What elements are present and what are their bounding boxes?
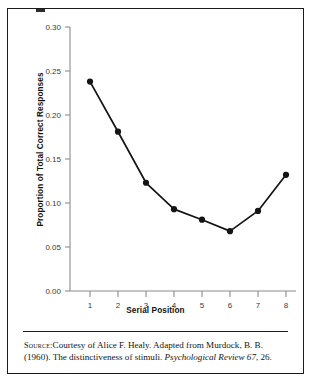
y-tick-label-020: 0.20 [45,111,61,120]
y-tick-label-000: 0.00 [45,287,61,296]
data-point-3 [143,180,149,186]
data-point-8 [283,172,289,178]
data-point-1 [87,78,93,84]
data-point-4 [171,206,177,212]
figure-container: 0.30 0.25 0.20 0.15 0.10 0.05 0.00 1 2 3 [7,8,304,374]
line-chart-svg: 0.30 0.25 0.20 0.15 0.10 0.05 0.00 1 2 3 [8,9,303,324]
y-tick-label-025: 0.25 [45,67,61,76]
caption-journal-title: Psychological Review 67 [165,352,256,362]
data-point-6 [227,228,233,234]
chart-plot-area: 0.30 0.25 0.20 0.15 0.10 0.05 0.00 1 2 3 [8,9,303,324]
data-point-markers [87,78,289,234]
y-axis-title: Proportion of Total Correct Responses [36,55,45,245]
source-caption: Source:Courtesy of Alice F. Healy. Adapt… [24,340,288,363]
data-point-2 [115,129,121,135]
y-tick-label-010: 0.10 [45,199,61,208]
caption-text-part2: , 26. [256,352,272,362]
y-tick-label-030: 0.30 [45,23,61,32]
source-label: Source: [24,341,53,350]
y-axis-ticks [65,27,70,291]
data-point-5 [199,217,205,223]
y-tick-label-005: 0.05 [45,243,61,252]
x-axis-ticks [90,291,286,297]
data-point-7 [255,208,261,214]
y-tick-label-015: 0.15 [45,155,61,164]
caption-divider [23,331,288,332]
x-axis-title: Serial Position [8,306,303,315]
